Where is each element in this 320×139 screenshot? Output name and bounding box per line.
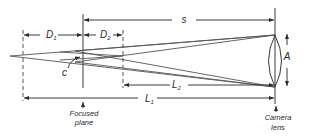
focused-plane-caption: Focused plane: [70, 102, 100, 127]
a-label: A: [283, 51, 291, 62]
l2-label: L2: [172, 79, 182, 91]
l1-dimension: L1: [24, 93, 274, 105]
light-rays: [10, 35, 275, 87]
d1-dimension: D1: [24, 29, 82, 41]
c-label: c: [62, 67, 67, 78]
svg-text:plane: plane: [74, 118, 93, 127]
camera-lens-caption: Camera lens: [265, 106, 292, 132]
d2-label: D2: [100, 29, 111, 41]
d2-dimension: D2: [84, 29, 122, 41]
s-label: s: [182, 14, 187, 25]
svg-text:lens: lens: [271, 123, 285, 132]
s-dimension: s: [84, 14, 274, 25]
svg-text:Camera: Camera: [265, 113, 292, 122]
aperture-dimension: A: [283, 34, 291, 86]
l2-dimension: L2: [124, 79, 274, 91]
svg-text:Focused: Focused: [70, 109, 100, 118]
depth-of-field-diagram: s D1 D2 c A L2: [0, 0, 320, 139]
l1-label: L1: [145, 93, 154, 105]
d1-label: D1: [46, 29, 57, 41]
